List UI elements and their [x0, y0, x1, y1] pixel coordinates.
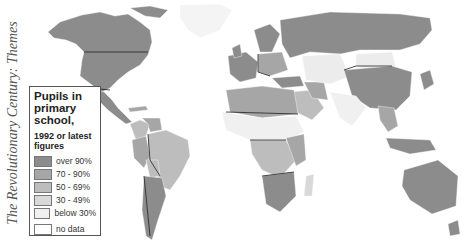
region-argentina: [142, 176, 166, 240]
region-madagascar: [304, 174, 314, 196]
region-bolivia: [146, 160, 160, 178]
region-japan: [420, 70, 434, 90]
legend-item-30-49: 30 - 49%: [34, 194, 96, 206]
legend-item-70-90: 70 - 90%: [34, 168, 96, 180]
legend-swatch: [34, 182, 52, 193]
region-scandinavia: [254, 24, 280, 52]
legend-label: 30 - 49%: [56, 195, 90, 205]
side-title-text: The Revolutionary Century: Themes: [5, 21, 21, 224]
region-eastern-europe: [258, 52, 288, 76]
legend-item-no-data: no data: [34, 223, 96, 235]
region-central-asia: [302, 54, 350, 84]
map-legend: Pupils in primary school, 1992 or latest…: [29, 86, 101, 236]
region-australia: [402, 160, 458, 214]
region-greenland: [180, 4, 232, 38]
legend-item-50-69: 50 - 69%: [34, 181, 96, 193]
region-turkey: [272, 76, 304, 88]
legend-title: Pupils in primary school,: [34, 90, 96, 126]
legend-item-below-30: below 30%: [34, 207, 96, 219]
region-russia: [280, 12, 432, 58]
region-uk: [232, 44, 242, 58]
region-europe-west: [228, 52, 258, 82]
legend-label: 50 - 69%: [56, 182, 90, 192]
legend-swatch: [34, 224, 52, 235]
legend-swatch: [34, 208, 50, 219]
legend-swatch: [34, 156, 52, 167]
legend-item-over-90: over 90%: [34, 155, 96, 167]
legend-label: below 30%: [54, 208, 96, 218]
side-title: The Revolutionary Century: Themes: [0, 0, 26, 246]
legend-label: 70 - 90%: [56, 169, 90, 179]
region-southern-africa: [262, 172, 296, 212]
legend-label: no data: [56, 224, 84, 234]
legend-swatch: [34, 195, 52, 206]
region-indonesia: [386, 138, 436, 154]
legend-swatch: [34, 169, 52, 180]
legend-label: over 90%: [56, 156, 92, 166]
region-new-zealand: [448, 220, 460, 236]
legend-subtitle: 1992 or latest figures: [34, 131, 96, 151]
